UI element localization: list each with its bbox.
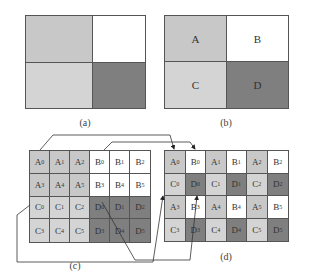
grid-cell: C1 [206,174,227,197]
panel-a-quadrants [25,15,146,109]
grid-cell: D2 [130,197,150,220]
grid-cell: D5 [268,219,289,242]
grid-cell: B5 [268,196,289,219]
quadrant-b: B [227,16,288,62]
panel-a-caption: (a) [65,117,105,128]
panel-c-caption: (c) [55,260,95,271]
grid-cell: B0 [186,151,207,174]
grid-cell: C3 [30,219,50,242]
grid-cell: B4 [110,174,130,197]
grid-cell: A2 [70,151,90,174]
grid-cell: C5 [70,219,90,242]
grid-cell: B3 [186,196,207,219]
grid-cell: A4 [206,196,227,219]
grid-cell: B1 [110,151,130,174]
grid-cell: B2 [268,151,289,174]
grid-cell: A2 [247,151,268,174]
quadrant-a: A [165,16,227,62]
arrow-a0 [40,135,174,150]
panel-d-caption: (d) [206,251,246,262]
panel-c-grid: A0A1A2B0B1B2A3A4A5B3B4B5C0C1C2D0D1D2C3C4… [29,150,151,243]
grid-cell: C0 [30,197,50,220]
grid-cell: A0 [30,151,50,174]
grid-cell: D0 [186,174,207,197]
grid-cell: A3 [30,174,50,197]
grid-cell: B0 [90,151,110,174]
panel-b-caption: (b) [206,117,246,128]
grid-cell: D4 [227,219,248,242]
arrow-b0 [104,142,195,150]
grid-cell: D4 [110,219,130,242]
grid-cell: C2 [247,174,268,197]
grid-cell: D5 [130,219,150,242]
quadrant-c: C [165,62,227,108]
grid-cell: A4 [50,174,70,197]
panel-d-grid: A0B0A1B1A2B2C0D0C1D1C2D2A3B3A4B4A5B5C3D3… [164,150,289,242]
grid-cell: D2 [268,174,289,197]
grid-cell: C4 [50,219,70,242]
grid-cell: B1 [227,151,248,174]
grid-cell: C5 [247,219,268,242]
grid-cell: D1 [227,174,248,197]
grid-cell: D1 [110,197,130,220]
quadrant-d: D [227,62,288,108]
grid-cell: D3 [90,219,110,242]
grid-cell: B3 [90,174,110,197]
grid-cell: C2 [70,197,90,220]
grid-cell: D3 [186,219,207,242]
grid-cell: A1 [50,151,70,174]
grid-cell: A5 [70,174,90,197]
quadrant-a [26,16,93,63]
grid-cell: A0 [165,151,186,174]
grid-cell: A1 [206,151,227,174]
grid-cell: C3 [165,219,186,242]
grid-cell: C4 [206,219,227,242]
panel-b-quadrants: ABCD [164,15,289,109]
grid-cell: C1 [50,197,70,220]
grid-cell: D0 [90,197,110,220]
grid-cell: B4 [227,196,248,219]
grid-cell: A5 [247,196,268,219]
grid-cell: A3 [165,196,186,219]
quadrant-b [93,16,145,63]
quadrant-d [93,63,145,108]
grid-cell: B2 [130,151,150,174]
grid-cell: B5 [130,174,150,197]
grid-cell: C0 [165,174,186,197]
quadrant-c [26,63,93,108]
